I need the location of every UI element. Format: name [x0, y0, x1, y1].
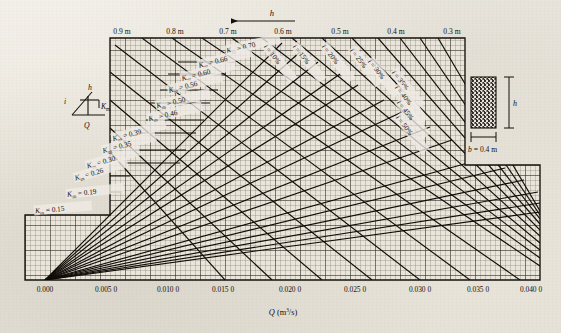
top-tick-3: 0.6 m: [274, 27, 291, 36]
x-tick-2: 0.010 0: [157, 285, 179, 294]
x-tick-1: 0.005 0: [95, 285, 117, 294]
inset-depth-label: h: [88, 83, 92, 92]
inset-flow-label: Q: [84, 121, 90, 130]
cross-section-height-label: h: [513, 99, 517, 108]
inset-slope-label: i: [64, 97, 66, 106]
top-tick-1: 0.8 m: [166, 27, 183, 36]
x-tick-5: 0.025 0: [344, 285, 366, 294]
h-arrow-label: h: [270, 8, 274, 18]
x-tick-7: 0.035 0: [467, 285, 489, 294]
top-tick-5: 0.4 m: [387, 27, 404, 36]
inset-roughness-label: Km: [100, 102, 110, 112]
cross-section-width-label: b = 0.4 m: [468, 145, 497, 154]
cross-section-body: [471, 77, 496, 128]
top-tick-2: 0.7 m: [219, 27, 236, 36]
x-tick-6: 0.030 0: [409, 285, 431, 294]
svg-text:Km = 0.19: Km = 0.19: [66, 187, 98, 200]
top-tick-4: 0.5 m: [331, 27, 348, 36]
figure-root: Km = 0.70 Km = 0.66 Km = 0.60 Km = 0.56: [0, 0, 561, 333]
km-value-10: 0.19: [83, 187, 97, 197]
x-tick-4: 0.020 0: [279, 285, 301, 294]
nomograph-plot: Km = 0.70 Km = 0.66 Km = 0.60 Km = 0.56: [0, 0, 561, 333]
top-axis: 0.9 m 0.8 m 0.7 m 0.6 m 0.5 m 0.4 m 0.3 …: [113, 27, 460, 36]
x-tick-8: 0.040 0: [520, 285, 542, 294]
km-value-11: 0.15: [51, 204, 65, 214]
h-direction-arrow: h: [232, 8, 295, 21]
bottom-axis: 0.000 0.005 0 0.010 0 0.015 0 0.020 0 0.…: [37, 285, 543, 317]
x-tick-0: 0.000: [37, 285, 54, 294]
x-axis-title: Q (m3/s): [269, 307, 298, 317]
x-tick-3: 0.015 0: [212, 285, 234, 294]
top-tick-0: 0.9 m: [113, 27, 130, 36]
inset-channel-sketch: i h Km Q: [64, 83, 110, 130]
top-tick-6: 0.3 m: [443, 27, 460, 36]
inset-cross-section: h b = 0.4 m: [468, 77, 517, 154]
